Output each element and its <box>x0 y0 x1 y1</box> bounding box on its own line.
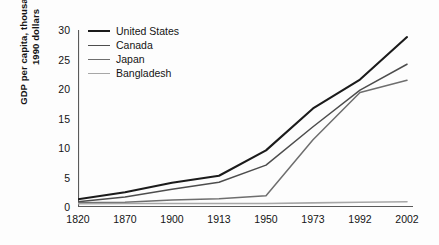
y-tick-label: 25 <box>44 54 70 66</box>
y-axis-title: GDP per capita, thousands of 1990 dollar… <box>18 0 48 130</box>
plot-area <box>78 30 413 207</box>
y-tick-label: 10 <box>44 142 70 154</box>
chart-screenshot: GDP per capita, thousands of 1990 dollar… <box>0 0 439 245</box>
y-tick-label: 5 <box>44 172 70 184</box>
series-line-united-states <box>78 37 407 199</box>
series-line-canada <box>78 64 407 201</box>
x-tick-label: 1913 <box>196 213 242 225</box>
y-tick-label: 15 <box>44 113 70 125</box>
x-tick-label: 1992 <box>337 213 383 225</box>
series-line-japan <box>78 80 407 203</box>
x-tick-label: 1870 <box>102 213 148 225</box>
series-canvas <box>78 30 413 207</box>
x-tick-label: 1950 <box>243 213 289 225</box>
y-tick-label: 0 <box>44 201 70 213</box>
x-tick-label: 1820 <box>55 213 101 225</box>
y-tick-label: 30 <box>44 24 70 36</box>
x-tick-label: 1900 <box>149 213 195 225</box>
x-tick-label: 1973 <box>290 213 336 225</box>
x-tick-label: 2002 <box>384 213 430 225</box>
y-tick-label: 20 <box>44 83 70 95</box>
